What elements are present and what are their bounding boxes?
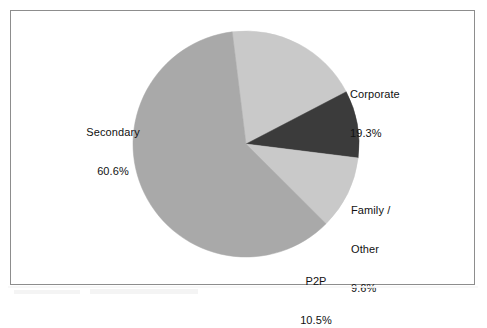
slice-label-p2p-value: 10.5% (289, 314, 343, 327)
slice-label-secondary-name: Secondary (72, 126, 154, 139)
slice-label-family-other-line1: Family / (351, 204, 390, 217)
slice-label-corporate-value: 19.3% (350, 127, 400, 140)
slice-label-corporate: Corporate 19.3% (350, 62, 400, 166)
scan-artifact-band (8, 286, 478, 288)
slice-label-secondary: Secondary 60.6% (72, 100, 154, 204)
slice-label-p2p: P2P 10.5% (289, 249, 343, 328)
scan-artifact-mid (90, 289, 198, 294)
slice-label-secondary-value: 60.6% (72, 165, 154, 178)
pie-slice-group (133, 31, 359, 257)
slice-label-corporate-name: Corporate (350, 88, 400, 101)
scan-artifact-left (14, 290, 80, 294)
slice-label-family-other-line2: Other (351, 243, 390, 256)
slice-label-family-other: Family / Other 9.6% (351, 178, 390, 321)
slice-label-family-other-value: 9.6% (351, 282, 390, 295)
